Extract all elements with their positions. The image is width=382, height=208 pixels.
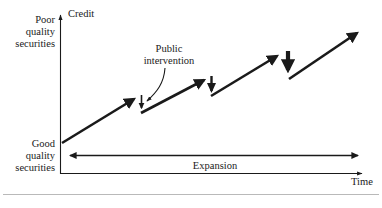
y-axis-top-band-label: Poor quality securities xyxy=(0,14,55,49)
clipped-caption-text xyxy=(95,201,295,208)
caption-divider xyxy=(3,194,379,195)
y-axis-bottom-band-label: Good quality securities xyxy=(0,138,55,173)
rise-segment-1 xyxy=(62,99,134,143)
rise-segment-4 xyxy=(289,33,357,79)
credit-cycle-diagram: Poor quality securities Good quality sec… xyxy=(0,0,382,208)
rise-segment-2 xyxy=(141,80,204,113)
public-intervention-leader xyxy=(147,68,165,101)
x-axis-title: Time xyxy=(351,176,373,188)
rise-segment-3 xyxy=(211,56,277,96)
public-intervention-label: Public intervention xyxy=(131,43,207,67)
y-axis-title: Credit xyxy=(68,8,94,20)
diagram-canvas xyxy=(0,0,382,208)
expansion-label: Expansion xyxy=(155,160,275,172)
